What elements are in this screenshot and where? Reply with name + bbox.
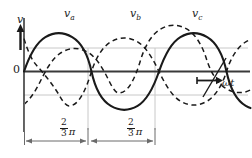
y-axis-label: v <box>17 14 23 25</box>
origin-label: 0 <box>13 64 20 75</box>
waveform-figure: v 0 ωt va vb vc 2 3 π 2 3 π <box>0 0 252 158</box>
fraction-1-numerator: 2 <box>60 118 68 127</box>
fraction-2: 2 3 <box>127 118 135 138</box>
fraction-1-denominator: 3 <box>60 129 68 138</box>
curve-label-vb-sub: b <box>136 13 141 22</box>
fraction-2-numerator: 2 <box>127 118 135 127</box>
curve-label-va-sub: a <box>70 13 74 22</box>
fraction-2-symbol: π <box>136 127 143 138</box>
dimension-label-1: 2 3 π <box>60 118 75 138</box>
x-axis-label: ωt <box>222 78 234 88</box>
fraction-2-denominator: 3 <box>127 129 135 138</box>
fraction-1-symbol: π <box>69 127 76 138</box>
right-arrow-icon <box>197 77 223 84</box>
curve-label-vb: vb <box>130 8 141 22</box>
plot-area <box>0 0 252 158</box>
fraction-1: 2 3 <box>60 118 68 138</box>
curve-label-vc-sub: c <box>198 13 202 22</box>
curve-label-va: va <box>64 8 75 22</box>
dimension-label-2: 2 3 π <box>127 118 142 138</box>
curve-label-vc: vc <box>192 8 202 22</box>
